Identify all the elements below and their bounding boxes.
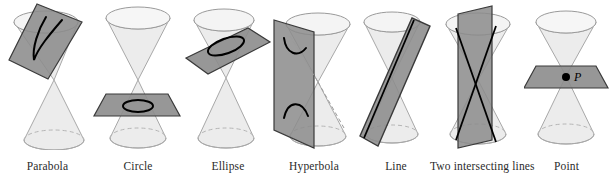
figure-panel-hyperbola: Hyperbola (268, 0, 360, 180)
figure-panel-parabola: Parabola (0, 0, 95, 180)
figure-panel-line: Line (356, 0, 436, 180)
caption-two-intersecting-lines: Two intersecting lines (430, 160, 530, 172)
figure-panel-point: P Point (524, 0, 609, 180)
two-intersecting-lines-diagram (430, 0, 530, 150)
figure-panel-circle: Circle (92, 0, 184, 180)
line-diagram (356, 0, 436, 150)
figure-panel-ellipse: Ellipse (182, 0, 274, 180)
caption-line: Line (356, 160, 436, 172)
point-label-p: P (573, 70, 582, 84)
conic-sections-figure: Parabola Circle (0, 0, 609, 180)
caption-point: Point (524, 160, 609, 172)
caption-circle: Circle (92, 160, 184, 172)
upper-nappe (106, 7, 170, 80)
cutting-plane (458, 6, 492, 148)
cutting-plane (274, 20, 314, 148)
circle-diagram (92, 0, 184, 150)
caption-parabola: Parabola (0, 160, 95, 172)
hyperbola-diagram (268, 0, 360, 150)
ellipse-diagram (182, 0, 274, 150)
caption-hyperbola: Hyperbola (268, 160, 360, 172)
lower-nappe (198, 78, 254, 148)
figure-panel-two-intersecting-lines: Two intersecting lines (430, 0, 530, 180)
caption-ellipse: Ellipse (182, 160, 274, 172)
point-diagram: P (524, 0, 609, 150)
parabola-diagram (0, 0, 95, 150)
lower-nappe (24, 80, 84, 150)
apex-point-marker (562, 73, 570, 81)
